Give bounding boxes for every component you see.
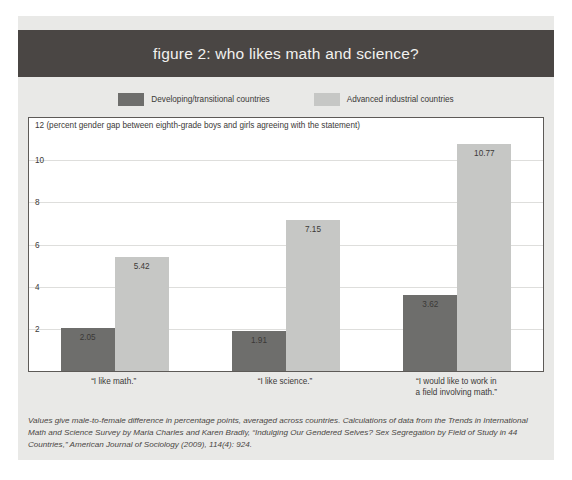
figure-footnote: Values give male-to-female difference in… bbox=[28, 415, 540, 452]
legend-item-advanced: Advanced industrial countries bbox=[314, 93, 454, 106]
legend-label-developing: Developing/transitional countries bbox=[151, 95, 269, 104]
legend-item-developing: Developing/transitional countries bbox=[118, 93, 269, 106]
legend-swatch-developing bbox=[118, 93, 144, 106]
page-title: figure 2: who likes math and science? bbox=[153, 45, 419, 63]
chart-legend: Developing/transitional countries Advanc… bbox=[18, 88, 554, 110]
bar-value-label: 1.91 bbox=[232, 336, 286, 345]
x-axis-label: “I like math.” bbox=[28, 376, 199, 387]
legend-label-advanced: Advanced industrial countries bbox=[347, 95, 454, 104]
y-tick-label: 8 bbox=[35, 198, 40, 207]
chart-bar: 1.91 bbox=[232, 331, 286, 371]
figure-card: figure 2: who likes math and science? De… bbox=[18, 16, 554, 460]
chart-bar: 2.05 bbox=[61, 328, 115, 371]
y-tick-label: 6 bbox=[35, 240, 40, 249]
chart-bar: 5.42 bbox=[115, 257, 169, 371]
x-axis-category-labels: “I like math.”“I like science.”“I would … bbox=[28, 376, 544, 406]
y-axis-caption: 12 (percent gender gap between eighth-gr… bbox=[35, 121, 360, 130]
y-tick-label: 2 bbox=[35, 324, 40, 333]
bar-value-label: 7.15 bbox=[286, 225, 340, 234]
bar-value-label: 2.05 bbox=[61, 333, 115, 342]
bar-value-label: 10.77 bbox=[457, 149, 511, 158]
figure-title-banner: figure 2: who likes math and science? bbox=[18, 30, 554, 77]
chart-plot-area: 12 (percent gender gap between eighth-gr… bbox=[28, 117, 544, 372]
chart-bar: 3.62 bbox=[403, 295, 457, 371]
y-tick-label: 4 bbox=[35, 282, 40, 291]
chart-bars: 2.055.421.917.153.6210.77 bbox=[29, 118, 543, 371]
legend-swatch-advanced bbox=[314, 93, 340, 106]
x-axis-label: “I like science.” bbox=[199, 376, 370, 387]
bar-value-label: 5.42 bbox=[115, 262, 169, 271]
y-tick-label: 10 bbox=[35, 156, 44, 165]
bar-value-label: 3.62 bbox=[403, 300, 457, 309]
x-axis-label: “I would like to work ina field involvin… bbox=[371, 376, 542, 398]
chart-bar: 7.15 bbox=[286, 220, 340, 371]
chart-bar: 10.77 bbox=[457, 144, 511, 371]
